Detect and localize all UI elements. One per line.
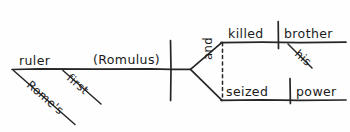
diagram-svg: ruler (Romulus) Rome's first and killed … (0, 0, 350, 132)
subject-baseline (12, 69, 171, 70)
sentence-diagram-canvas: ruler (Romulus) Rome's first and killed … (0, 0, 350, 132)
fork-lower-arm (191, 69, 223, 100)
modifier-label-his: his (292, 47, 315, 69)
conjunction-label: and (201, 37, 215, 60)
verb-label-lower: seized (226, 84, 268, 99)
modifier-label-romes: Rome's (24, 78, 67, 118)
object-label-upper: brother (284, 26, 333, 41)
appositive-label: (Romulus) (93, 52, 160, 67)
verb-label-upper: killed (228, 26, 264, 41)
subject-head-label: ruler (19, 53, 51, 68)
lower-branch-baseline (221, 100, 346, 101)
subject-predicate-divider (171, 41, 172, 101)
object-label-lower: power (296, 84, 337, 99)
